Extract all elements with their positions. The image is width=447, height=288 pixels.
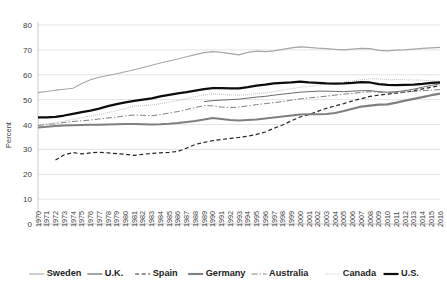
y-axis-tick-label: 10 [23, 195, 32, 204]
legend-item-canada[interactable]: Canada [325, 268, 377, 278]
x-axis-tick-label: 1991 [217, 211, 226, 227]
legend-label: U.S. [401, 268, 419, 278]
x-axis-tick-label: 2005 [339, 211, 348, 227]
x-axis-tick-label: 1971 [42, 211, 51, 227]
x-axis-tick-label: 1988 [191, 211, 200, 227]
y-axis-tick-label: 40 [23, 121, 32, 130]
x-axis-tick-label: 1998 [278, 211, 287, 227]
x-axis-tick-label: 2004 [331, 211, 340, 227]
series-line-sweden [38, 47, 440, 93]
line-chart-plot: 01020304050607080 1970197119721973197419… [0, 0, 447, 288]
x-axis-tick-label: 1995 [252, 211, 261, 227]
x-axis-tick-label: 2010 [383, 211, 392, 227]
x-axis-ticks-group: 1970197119721973197419751976197719781979… [34, 211, 445, 227]
x-axis-tick-label: 1978 [104, 211, 113, 227]
series-group [38, 47, 440, 160]
x-axis-tick-label: 2006 [348, 211, 357, 227]
y-axis-ticks-group: 01020304050607080 [23, 21, 32, 229]
y-axis-tick-label: 50 [23, 96, 32, 105]
x-axis-tick-label: 1987 [182, 211, 191, 227]
y-axis-title: Percent [4, 121, 13, 148]
x-axis-tick-label: 1994 [243, 211, 252, 227]
x-axis-tick-label: 1973 [60, 211, 69, 227]
x-axis-tick-label: 1990 [208, 211, 217, 227]
legend-label: Germany [206, 268, 247, 278]
series-line-spain [55, 86, 440, 160]
x-axis-tick-label: 1979 [112, 211, 121, 227]
x-axis-tick-label: 1982 [138, 211, 147, 227]
x-axis-tick-label: 1996 [261, 211, 270, 227]
y-axis-tick-label: 30 [23, 145, 32, 154]
x-axis-tick-label: 2014 [418, 211, 427, 227]
legend-label: Australia [269, 268, 309, 278]
x-axis-tick-label: 2009 [374, 211, 383, 227]
series-line-canada [38, 79, 440, 125]
x-axis-tick-label: 1985 [165, 211, 174, 227]
x-axis-tick-label: 1977 [95, 211, 104, 227]
x-axis-tick-label: 2007 [357, 211, 366, 227]
legend-item-sweden[interactable]: Sweden [29, 268, 82, 278]
legend-label: U.K. [105, 268, 123, 278]
x-axis-tick-label: 2000 [296, 211, 305, 227]
x-axis-tick-label: 2016 [436, 211, 445, 227]
legend-label: Canada [343, 268, 377, 278]
x-axis-tick-label: 1980 [121, 211, 130, 227]
x-axis-tick-label: 1989 [200, 211, 209, 227]
x-axis-tick-label: 1992 [226, 211, 235, 227]
x-axis-tick-label: 1984 [156, 211, 165, 227]
legend-label: Sweden [47, 268, 82, 278]
x-axis-tick-label: 1986 [173, 211, 182, 227]
chart-container: 01020304050607080 1970197119721973197419… [0, 0, 447, 288]
x-axis-tick-label: 1997 [270, 211, 279, 227]
x-axis-tick-label: 2008 [366, 211, 375, 227]
y-axis-tick-label: 70 [23, 46, 32, 55]
x-axis-tick-label: 1981 [130, 211, 139, 227]
legend-group: SwedenU.K.SpainGermanyAustraliaCanadaU.S… [29, 268, 419, 278]
x-axis-tick-label: 1974 [69, 211, 78, 227]
legend-item-uk[interactable]: U.K. [87, 268, 123, 278]
x-axis-tick-label: 2012 [401, 211, 410, 227]
y-axis-tick-label: 80 [23, 21, 32, 30]
x-axis-tick-label: 1983 [147, 211, 156, 227]
x-axis-tick-label: 1993 [235, 211, 244, 227]
y-axis-tick-label: 0 [28, 220, 33, 229]
legend-label: Spain [153, 268, 178, 278]
legend-item-australia[interactable]: Australia [252, 268, 310, 278]
y-axis-tick-label: 20 [23, 170, 32, 179]
y-axis-title-group: Percent [4, 121, 13, 148]
x-axis-tick-label: 1976 [86, 211, 95, 227]
x-axis-tick-label: 2001 [305, 211, 314, 227]
x-axis-tick-label: 1999 [287, 211, 296, 227]
x-axis-tick-label: 1970 [34, 211, 43, 227]
x-axis-tick-label: 2003 [322, 211, 331, 227]
x-axis-tick-label: 2002 [313, 211, 322, 227]
x-axis-tick-label: 1975 [77, 211, 86, 227]
y-axis-tick-label: 60 [23, 71, 32, 80]
legend-item-germany[interactable]: Germany [188, 268, 246, 278]
x-axis-tick-label: 2015 [427, 211, 436, 227]
gridlines-group [38, 22, 440, 224]
legend-item-spain[interactable]: Spain [135, 268, 178, 278]
x-axis-tick-label: 2011 [392, 212, 401, 227]
legend-item-us[interactable]: U.S. [384, 268, 419, 278]
x-axis-tick-label: 2013 [409, 211, 418, 227]
x-axis-tick-label: 1972 [51, 211, 60, 227]
